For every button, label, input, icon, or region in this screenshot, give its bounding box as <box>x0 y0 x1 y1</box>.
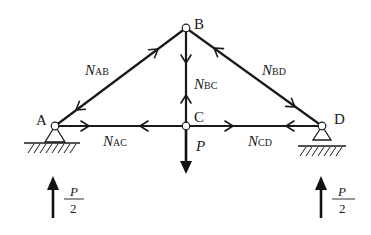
node-b <box>182 24 190 32</box>
truss-diagram: A B C D NAB NBC NBD NAC NCD P P 2 P 2 <box>0 0 371 235</box>
force-label-nab: NAB <box>84 62 109 78</box>
member-bd <box>186 28 322 126</box>
reaction-a-numerator: P <box>69 184 78 199</box>
support-a-pin-icon <box>24 126 80 153</box>
reaction-a-denominator: 2 <box>70 201 77 216</box>
load-label-p: P <box>195 138 205 154</box>
support-d-roller-icon <box>298 126 346 156</box>
node-label-d: D <box>334 111 345 127</box>
node-d <box>318 122 326 130</box>
force-label-ncd: NCD <box>247 133 272 149</box>
node-a <box>51 122 59 130</box>
reaction-d-arrow-icon <box>315 176 327 190</box>
node-c <box>182 122 190 130</box>
reaction-a-arrow-icon <box>47 176 59 190</box>
force-label-nac: NAC <box>102 133 127 149</box>
node-label-c: C <box>194 109 204 125</box>
force-label-nbd: NBD <box>261 62 286 78</box>
member-ab <box>55 28 186 126</box>
node-label-a: A <box>36 112 47 128</box>
load-p-arrow-icon <box>180 161 192 174</box>
reaction-d-denominator: 2 <box>339 201 346 216</box>
reaction-d-numerator: P <box>337 184 346 199</box>
node-label-b: B <box>194 16 204 32</box>
force-label-nbc: NBC <box>193 76 218 92</box>
